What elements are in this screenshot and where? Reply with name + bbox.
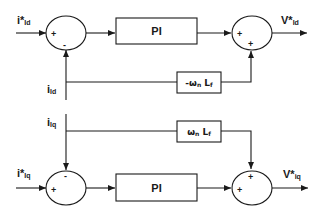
minus-sign: -	[63, 40, 66, 50]
q-axis-loop: iIq ωn Lf i*Iq + - PI + +	[16, 114, 308, 205]
q-decoupling-gain-label: ωn Lf	[187, 127, 211, 137]
plus-sign: +	[237, 185, 242, 195]
i-q-label: iIq	[47, 116, 56, 129]
plus-sign: +	[51, 185, 56, 195]
plus-sign: +	[248, 172, 253, 182]
i-d-label: iId	[47, 83, 56, 95]
d-decoupling-output-arrow	[221, 51, 251, 82]
minus-sign: -	[64, 171, 67, 181]
i-ref-d-label: i*Id	[17, 14, 31, 26]
dq-current-control-diagram: i*Id + - iId PI -ωn Lf + +	[0, 0, 323, 216]
q-decoupling-output-arrow	[221, 131, 251, 169]
plus-sign: +	[248, 39, 253, 49]
d-pi-label: PI	[151, 25, 161, 37]
v-ref-q-label: V*iq	[283, 168, 301, 181]
plus-sign: +	[237, 29, 242, 39]
plus-sign: +	[51, 29, 56, 39]
i-ref-q-label: i*Iq	[17, 167, 31, 180]
q-pi-label: PI	[151, 182, 161, 194]
v-ref-d-label: V*Id	[281, 14, 299, 26]
d-axis-loop: i*Id + - iId PI -ωn Lf + +	[16, 14, 307, 100]
